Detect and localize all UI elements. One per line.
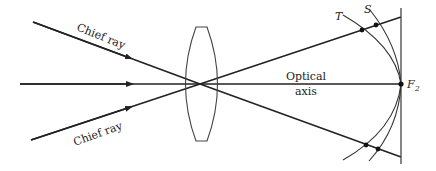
focal-point-f2 <box>398 81 403 86</box>
focal-point-label: F2 <box>406 78 420 93</box>
tangential-focus-upper <box>360 28 365 33</box>
optical-axis-label-2: axis <box>295 85 317 98</box>
sagittal-focus-lower <box>376 147 381 152</box>
optics-diagram: Chief ray Chief ray Optical axis T S F2 <box>0 0 436 171</box>
tangential-focus-lower <box>364 143 369 148</box>
focal-point-subscript: 2 <box>414 84 420 93</box>
sagittal-label: S <box>364 3 372 16</box>
tangential-label: T <box>335 10 344 23</box>
sagittal-surface <box>369 10 401 161</box>
optical-axis-label-1: Optical <box>286 70 327 83</box>
sagittal-focus-upper <box>374 23 379 28</box>
